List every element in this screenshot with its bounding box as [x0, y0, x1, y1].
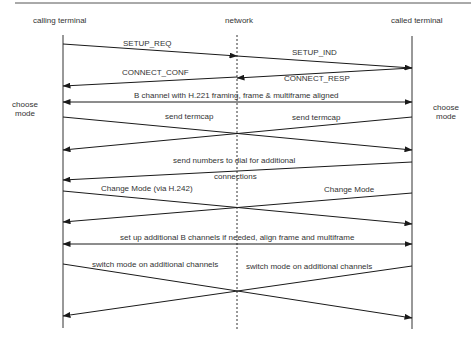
label-b-channel: B channel with H.221 framing, frame & mu… — [134, 91, 339, 100]
note-choose-mode-left: choose mode — [10, 100, 40, 118]
label-send-numbers-line2: connections — [214, 172, 257, 181]
label-switch-mode-left: switch mode on additional channels — [92, 260, 218, 269]
note-line: choose — [431, 103, 461, 112]
label-change-mode-right: Change Mode — [324, 185, 374, 194]
label-setup-req: SETUP_REQ — [123, 39, 171, 48]
arrow-change-mode-right — [63, 193, 412, 222]
arrow-connect-conf — [63, 77, 237, 86]
label-setup-additional: set up additional B channels if needed, … — [120, 233, 354, 242]
arrow-setup-ind — [237, 56, 412, 68]
note-line: mode — [431, 112, 461, 121]
note-line: choose — [10, 100, 40, 109]
participant-calling-terminal: calling terminal — [33, 16, 86, 25]
note-line: mode — [10, 109, 40, 118]
label-switch-mode-right: switch mode on additional channels — [246, 262, 372, 271]
note-choose-mode-right: choose mode — [431, 103, 461, 121]
participant-called-terminal: called terminal — [391, 16, 443, 25]
label-send-numbers-line1: send numbers to dial for additional — [173, 156, 295, 165]
label-change-mode-left: Change Mode (via H.242) — [101, 184, 193, 193]
participant-network: network — [225, 16, 253, 25]
label-connect-conf: CONNECT_CONF — [122, 68, 189, 77]
label-connect-resp: CONNECT_RESP — [284, 74, 350, 83]
label-send-termcap-right: send termcap — [292, 113, 340, 122]
label-setup-ind: SETUP_IND — [292, 48, 337, 57]
label-send-termcap-left: send termcap — [165, 112, 213, 121]
